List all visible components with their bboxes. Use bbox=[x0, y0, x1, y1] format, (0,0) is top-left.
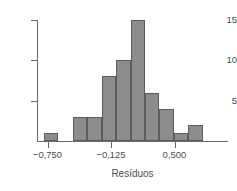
x-axis-title: Resíduos bbox=[37, 168, 228, 179]
histogram-bar bbox=[188, 125, 202, 141]
histogram-chart: 51015 −0,750−0,1250,500 Resíduos bbox=[0, 0, 237, 191]
histogram-bar bbox=[174, 133, 188, 141]
histogram-bar bbox=[145, 93, 159, 141]
histogram-bar bbox=[102, 76, 116, 141]
histogram-bar bbox=[44, 133, 58, 141]
histogram-bar bbox=[87, 117, 101, 141]
histogram-bars bbox=[0, 0, 237, 191]
histogram-bar bbox=[159, 109, 173, 141]
histogram-bar bbox=[73, 117, 87, 141]
histogram-bar bbox=[131, 20, 145, 141]
histogram-bar bbox=[116, 60, 130, 141]
